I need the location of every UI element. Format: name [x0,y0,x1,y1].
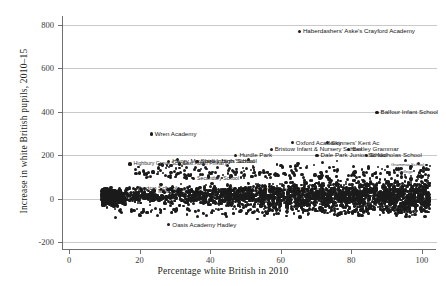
data-point [325,170,328,173]
data-point [315,182,317,184]
data-point [372,208,374,210]
x-tick-mark [351,250,352,254]
data-point [165,167,167,169]
data-point [360,185,362,187]
data-point [384,178,386,180]
data-point [413,170,415,172]
data-point [401,189,403,191]
data-point [295,169,298,172]
data-point [313,173,316,176]
data-point [130,209,133,212]
point-label: Oasis Academy Hadley [172,222,236,228]
y-tick-label: 400 [20,107,54,117]
data-point [205,168,207,170]
point-label: College [398,170,413,174]
data-point [138,214,141,217]
data-point [361,179,363,181]
data-point [240,194,242,196]
data-point [343,194,345,196]
data-point [251,200,253,202]
data-point [360,214,363,217]
data-point [371,175,373,177]
grid-line [63,242,437,243]
data-point [178,167,180,169]
data-point [138,171,141,174]
data-point [420,196,422,198]
data-point [407,200,409,202]
data-point [250,203,252,205]
data-point [405,177,407,179]
data-point [134,168,137,171]
data-point [389,184,392,187]
point-label: East Acton Primary [183,161,227,166]
labelled-data-point [375,111,378,114]
data-point [302,211,304,213]
data-point [325,193,327,195]
data-point [219,202,221,204]
data-point [125,194,127,196]
data-point [106,187,109,190]
data-point [149,175,152,178]
data-point [218,199,221,202]
data-point [416,176,418,178]
data-point [259,193,262,196]
data-point [258,211,260,213]
data-point [362,211,365,214]
point-label: St Nicholas School [370,152,422,158]
labelled-data-point [192,177,195,180]
data-point [212,196,214,198]
scatter-chart-figure: Increase in white British pupils, 2010–1… [0,0,446,286]
data-point [336,208,338,210]
data-point [186,213,188,215]
data-point [311,179,313,181]
data-point [336,204,338,206]
point-label: Grammar School [391,163,424,167]
labelled-data-point [386,165,389,168]
data-point [243,173,246,176]
data-point [170,201,173,204]
data-point [238,200,241,203]
data-point [113,201,116,204]
data-point [142,209,145,212]
data-point [360,194,362,196]
x-tick-label: 80 [334,255,368,265]
data-point [147,171,150,174]
data-point [301,208,303,210]
data-point [395,200,398,203]
data-point [363,187,365,189]
data-point [336,168,339,171]
data-point [428,207,431,210]
data-point [341,211,343,213]
data-point [142,194,145,197]
data-point [318,194,320,196]
data-point [245,212,247,214]
data-point [321,161,324,164]
data-point [131,194,133,196]
data-point [174,197,177,200]
data-point [146,211,149,214]
x-tick-label: 60 [264,255,298,265]
point-label: City of London Academy (Southwark) [229,186,331,192]
data-point [270,203,272,205]
data-point [395,214,398,217]
data-point [204,192,206,194]
data-point [379,214,381,216]
data-point [214,171,217,174]
data-point [293,174,296,177]
data-point [129,200,131,202]
x-tick-mark [69,250,70,254]
data-point [163,208,165,210]
data-point [134,172,137,175]
data-point [358,176,360,178]
data-point [180,183,182,185]
data-point [344,198,346,200]
labelled-data-point [298,30,301,33]
grid-line [63,68,437,69]
data-point [428,184,431,187]
data-point [164,202,166,204]
data-point [293,212,295,214]
labelled-data-point [291,141,294,144]
x-tick-label: 0 [52,255,86,265]
data-point [224,213,227,216]
data-point [211,212,213,214]
